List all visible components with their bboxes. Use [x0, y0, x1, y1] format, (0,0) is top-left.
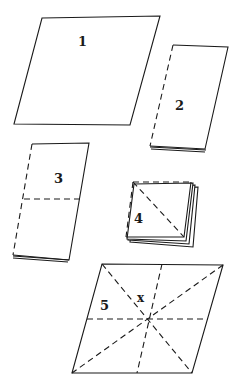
center-marker-x: x [137, 291, 145, 305]
step-2-label: 2 [175, 98, 184, 113]
step-5-label: 5 [100, 298, 109, 313]
quarter-sheet-edges [13, 143, 89, 260]
step-5-figure: 5 x [72, 264, 223, 373]
fold-edge [150, 45, 173, 146]
step-3-label: 3 [54, 171, 63, 186]
step-4-label: 4 [134, 211, 143, 226]
step-1-label: 1 [78, 34, 87, 49]
step-3-figure: 3 [13, 143, 89, 262]
step-1-figure: 1 [14, 16, 160, 125]
step-2-figure: 2 [150, 45, 228, 152]
step-4-figure: 4 [126, 182, 198, 247]
bottom-layer [13, 258, 68, 262]
square-sheet [14, 16, 160, 125]
folding-diagram: 1 2 3 4 5 x [0, 0, 238, 387]
